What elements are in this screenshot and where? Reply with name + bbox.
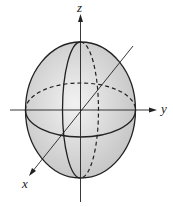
ellipsoid-diagram: z y x: [0, 0, 173, 207]
y-axis-label: y: [161, 101, 167, 117]
x-arrow-icon: [29, 168, 36, 176]
x-axis-label: x: [22, 176, 28, 192]
y-arrow-icon: [149, 108, 157, 113]
z-axis-label: z: [77, 0, 82, 16]
